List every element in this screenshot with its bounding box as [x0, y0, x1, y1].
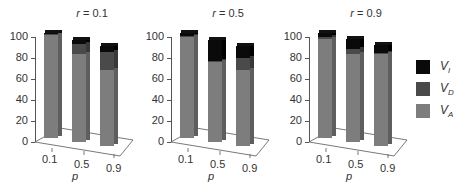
- segment-vd-side: [86, 42, 90, 51]
- bar-top: [209, 37, 226, 40]
- segment-va: [318, 39, 332, 138]
- segment-va: [180, 37, 194, 138]
- segment-va-side: [58, 33, 62, 136]
- bar-top: [45, 30, 62, 33]
- segment-vi: [208, 40, 222, 61]
- x-axis-label: p: [208, 170, 214, 182]
- segment-vd-side: [332, 35, 336, 37]
- x-tick-label: 0.5: [348, 158, 363, 170]
- segment-vi-side: [222, 38, 226, 59]
- segment-vi: [374, 45, 388, 52]
- segment-vi: [72, 40, 86, 44]
- segment-vd-side: [388, 51, 392, 52]
- segment-vd-side: [114, 50, 118, 69]
- segment-va: [208, 62, 222, 142]
- bar-top: [101, 43, 118, 46]
- segment-vi: [236, 46, 250, 58]
- x-tick-label: 0.9: [380, 162, 395, 174]
- bar-top: [375, 42, 392, 45]
- segment-vd-side: [250, 56, 254, 69]
- segment-vd-side: [360, 47, 364, 52]
- segment-vd: [72, 44, 86, 53]
- segment-vd-side: [222, 59, 226, 60]
- x-tick-label: 0.5: [74, 158, 89, 170]
- x-tick-label: 0.1: [316, 153, 331, 165]
- segment-va-side: [332, 37, 336, 136]
- legend-item-va: VA: [416, 102, 466, 124]
- segment-vi: [180, 33, 194, 36]
- segment-va-side: [388, 52, 392, 144]
- bar-top: [237, 43, 254, 46]
- panel-r-0-1: r = 0.10204060801000.10.50.9p: [2, 0, 142, 190]
- segment-vd: [318, 37, 332, 39]
- x-tick-label: 0.1: [42, 153, 57, 165]
- legend-item-vi: VI: [416, 58, 466, 80]
- legend-swatch-va: [416, 104, 430, 118]
- bar-top: [73, 37, 90, 40]
- segment-va-side: [114, 68, 118, 144]
- segment-va-side: [86, 52, 90, 140]
- x-tick-label: 0.9: [106, 162, 121, 174]
- segment-vd: [100, 52, 114, 71]
- panel-r-0-9: r = 0.90204060801000.10.50.9p: [276, 0, 416, 190]
- segment-vd: [208, 61, 222, 62]
- segment-vd: [44, 34, 58, 35]
- segment-va: [44, 35, 58, 138]
- legend-item-vd: VD: [416, 80, 466, 102]
- segment-vi: [318, 33, 332, 37]
- bar-top: [319, 30, 336, 33]
- segment-va: [374, 54, 388, 146]
- legend-swatch-vd: [416, 82, 430, 96]
- legend-label-vi: VI: [440, 59, 450, 75]
- x-tick-label: 0.9: [242, 162, 257, 174]
- segment-va-side: [250, 68, 254, 144]
- segment-va-side: [360, 52, 364, 140]
- segment-va: [72, 54, 86, 142]
- x-axis-label: p: [346, 170, 352, 182]
- x-tick-label: 0.1: [178, 153, 193, 165]
- legend: VI VD VA: [416, 58, 466, 124]
- segment-vi: [44, 33, 58, 34]
- segment-vd: [236, 58, 250, 71]
- segment-vd: [374, 53, 388, 54]
- x-tick-label: 0.5: [210, 158, 225, 170]
- segment-va-side: [222, 60, 226, 140]
- segment-va: [100, 70, 114, 146]
- segment-va-side: [194, 35, 198, 136]
- x-axis-label: p: [72, 170, 78, 182]
- legend-label-vd: VD: [440, 81, 454, 97]
- legend-swatch-vi: [416, 60, 430, 74]
- segment-vd: [346, 49, 360, 54]
- bar-top: [181, 30, 198, 33]
- segment-vd-side: [194, 34, 198, 35]
- segment-va: [346, 54, 360, 142]
- panel-r-0-5: r = 0.50204060801000.10.50.9p: [138, 0, 278, 190]
- bar-top: [347, 36, 364, 39]
- segment-vd: [180, 36, 194, 37]
- segment-vi: [100, 46, 114, 51]
- legend-label-va: VA: [440, 103, 453, 119]
- segment-vi: [346, 39, 360, 48]
- segment-va: [236, 70, 250, 146]
